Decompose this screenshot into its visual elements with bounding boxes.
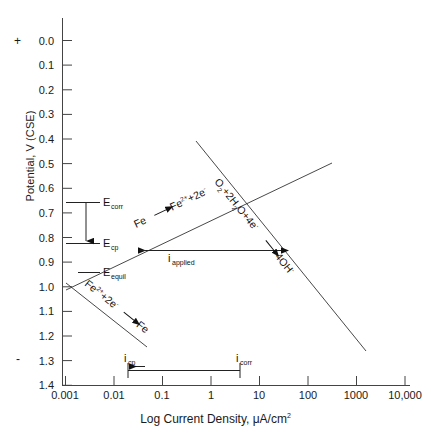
- x-tick-label-5: 100: [299, 389, 317, 401]
- current-annotations: i applied i cp i corr: [124, 252, 253, 367]
- e-equil-base-text: E: [103, 266, 110, 278]
- annotation-e-corr: E corr: [103, 196, 124, 210]
- annotation-i-cp: i cp: [124, 352, 136, 367]
- i-corr-sub-text: corr: [240, 359, 253, 366]
- e-corr-sub-text: corr: [111, 203, 124, 210]
- reaction-label-fe-cathodic: Fe2++2e- Fe: [83, 277, 152, 335]
- ox-arrow-glyph: [266, 240, 275, 251]
- y-tick-label-7: 0.7: [39, 207, 54, 219]
- y-tick-label-2: 0.2: [39, 84, 54, 96]
- x-tick-label-4: 10: [253, 389, 265, 401]
- y-axis-title: Potential, V (CSE): [24, 96, 36, 216]
- e-corr-base-text: E: [103, 196, 110, 208]
- annotation-e-equil: E equil: [103, 266, 126, 281]
- x-tick-labels: 0.001 0.01 0.1 1 10 100 1000 10,000: [51, 389, 422, 401]
- svg-text:Fe: Fe: [132, 214, 148, 230]
- y-tick-label-11: 1.1: [39, 305, 54, 317]
- x-tick-label-0: 0.001: [51, 389, 79, 401]
- svg-text:Fe: Fe: [134, 318, 151, 335]
- y-tick-labels: 0.0 0.1 0.2 0.3 0.4 0.5 0.6 0.7 0.8 0.9 …: [39, 35, 54, 392]
- e-equil-sub-text: equil: [111, 273, 126, 281]
- i-corr-base-text: i: [236, 352, 238, 364]
- annotation-i-applied: i applied: [168, 252, 195, 267]
- y-tick-label-8: 0.8: [39, 232, 54, 244]
- x-axis-title-exponent: 2: [287, 412, 291, 419]
- potential-annotations: E corr E cp E equil: [103, 196, 126, 281]
- y-tick-label-9: 0.9: [39, 256, 54, 268]
- polarity-plus-sign: +: [14, 34, 21, 48]
- reaction-label-fe-anodic: Fe Fe2++2e-: [132, 185, 209, 230]
- y-tick-label-13: 1.3: [39, 355, 54, 367]
- fe-anodic-reactant: Fe: [132, 214, 148, 230]
- y-tick-label-10: 1.0: [39, 281, 54, 293]
- fe-cathodic-arrow-glyph: [124, 312, 135, 321]
- annotation-e-cp: E cp: [103, 237, 119, 252]
- y-tick-label-4: 0.4: [39, 133, 54, 145]
- y-tick-label-12: 1.2: [39, 330, 54, 342]
- e-cp-sub-text: cp: [111, 244, 119, 252]
- polarity-minus-sign: -: [16, 352, 20, 366]
- svg-text:Fe2++2e-: Fe2++2e-: [83, 277, 122, 311]
- polarization-chart-svg: 0.0 0.1 0.2 0.3 0.4 0.5 0.6 0.7 0.8 0.9 …: [0, 0, 431, 446]
- y-tick-label-5: 0.5: [39, 158, 54, 170]
- current-range-bracket: [128, 363, 240, 378]
- y-tick-label-0: 0.0: [39, 35, 54, 47]
- x-axis-title-text: Log Current Density, μA/cm: [140, 412, 287, 426]
- i-cp-sub-text: cp: [128, 359, 136, 367]
- x-axis-ticks: [66, 376, 406, 386]
- y-tick-label-3: 0.3: [39, 108, 54, 120]
- svg-text:4OH-: 4OH-: [273, 250, 297, 276]
- x-tick-label-3: 1: [208, 389, 214, 401]
- y-tick-label-1: 0.1: [39, 59, 54, 71]
- x-tick-label-6: 1000: [344, 389, 368, 401]
- i-applied-base-text: i: [168, 252, 170, 264]
- fe-anodic-arrow-glyph: [154, 209, 167, 215]
- svg-text:O2+2H2O+4e-: O2+2H2O+4e-: [211, 176, 262, 234]
- x-axis-title: Log Current Density, μA/cm2: [0, 412, 431, 426]
- reaction-label-oxygen-reduction: O2+2H2O+4e- 4OH-: [211, 176, 297, 278]
- svg-text:Fe2++2e-: Fe2++2e-: [168, 185, 209, 213]
- annotation-i-corr: i corr: [236, 352, 253, 366]
- x-tick-label-1: 0.01: [103, 389, 124, 401]
- curve-oxygen-reduction: [196, 141, 366, 351]
- i-cp-base-text: i: [124, 352, 126, 364]
- x-tick-label-7: 10,000: [388, 389, 422, 401]
- i-applied-sub-text: applied: [172, 259, 195, 267]
- fe-cathodic-product: Fe: [134, 318, 151, 335]
- x-tick-label-2: 0.1: [154, 389, 169, 401]
- y-tick-label-6: 0.6: [39, 182, 54, 194]
- e-cp-base-text: E: [103, 237, 110, 249]
- y-axis-ticks: [63, 41, 73, 386]
